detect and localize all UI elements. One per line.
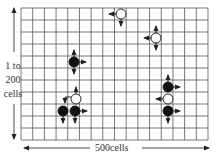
white-circle-icon — [71, 94, 81, 104]
cell-grid — [21, 8, 208, 140]
black-piece — [163, 75, 180, 92]
white-circle-icon — [151, 33, 161, 43]
vertical-axis-label-line-3: cells — [2, 88, 24, 99]
black-piece — [58, 106, 68, 123]
black-piece — [69, 50, 86, 74]
horizontal-axis-label: 500cells — [95, 142, 128, 153]
black-circle-icon — [70, 106, 80, 116]
white-piece — [109, 9, 126, 26]
black-circle-icon — [69, 57, 79, 67]
pieces — [58, 9, 180, 123]
vertical-axis-label-line-1: 1 to — [2, 60, 24, 71]
black-piece — [163, 106, 180, 123]
white-piece — [156, 94, 173, 104]
axes — [14, 8, 209, 148]
vertical-axis-label-line-2: 200 — [2, 74, 24, 85]
white-circle-icon — [116, 9, 126, 19]
black-circle-icon — [58, 106, 68, 116]
white-circle-icon — [163, 94, 173, 104]
white-piece — [144, 26, 161, 50]
lattice-diagram — [0, 0, 216, 158]
vertical-axis-label: 1 to 200 cells — [2, 60, 24, 99]
black-piece — [70, 106, 87, 123]
black-circle-icon — [163, 82, 173, 92]
black-circle-icon — [163, 106, 173, 116]
